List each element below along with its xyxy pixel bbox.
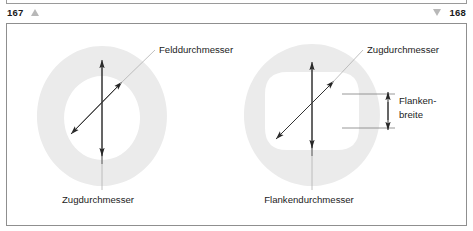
right-diagonal-label: Zugdurchmesser <box>367 44 440 55</box>
page-root: 167 168 <box>0 0 473 231</box>
top-rule-divider <box>6 0 467 4</box>
triangle-down-icon <box>433 9 441 16</box>
triangle-up-icon <box>31 9 39 16</box>
left-diagonal-label: Felddurchmesser <box>159 44 234 55</box>
page-number-bar: 167 168 <box>0 5 473 21</box>
flankenbreite-label-line2: breite <box>399 109 423 120</box>
right-vertical-label: Flankendurchmesser <box>264 194 354 205</box>
technical-diagram: Felddurchmesser Zugdurchmesser Zugdurchm… <box>7 24 466 225</box>
left-vertical-label: Zugdurchmesser <box>62 194 135 205</box>
page-number-left: 167 <box>7 7 23 19</box>
page-number-right: 168 <box>450 7 466 19</box>
flankenbreite-label-line1: Flanken- <box>399 95 436 106</box>
figure-panel: Felddurchmesser Zugdurchmesser Zugdurchm… <box>6 23 467 226</box>
